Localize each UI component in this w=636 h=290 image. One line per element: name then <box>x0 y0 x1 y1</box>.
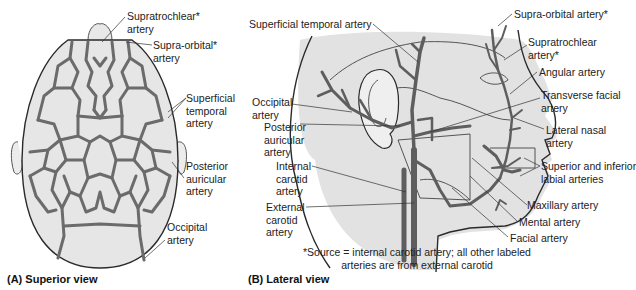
label-b-supratrochlear: Supratrochlear artery* <box>528 36 597 61</box>
label-b-posterior-auricular: Posterior auricular artery <box>264 121 306 159</box>
footnote-source: *Source = internal carotid artery; all o… <box>282 246 552 272</box>
label-b-internal-carotid: Internal carotid artery <box>276 160 311 198</box>
label-a-occipital: Occipital artery <box>167 221 207 246</box>
label-a-supraorbital: Supra-orbital* artery <box>153 39 217 64</box>
label-b-angular: Angular artery <box>539 66 605 79</box>
label-b-transverse-facial: Transverse facial artery <box>541 89 621 114</box>
label-a-posterior-auricular: Posterior auricular artery <box>186 160 228 198</box>
caption-superior-view: (A) Superior view <box>7 273 97 285</box>
label-b-mental: Mental artery <box>519 216 580 229</box>
label-b-facial: Facial artery <box>510 232 568 245</box>
label-b-occipital: Occipital artery <box>252 96 292 121</box>
caption-lateral-view: (B) Lateral view <box>248 273 329 285</box>
label-b-labial: Superior and inferior labial arteries <box>541 160 636 185</box>
label-b-maxillary: Maxillary artery <box>527 199 598 212</box>
label-b-external-carotid: External carotid artery <box>266 201 305 239</box>
label-a-superficial-temporal: Superficial temporal artery <box>186 92 235 130</box>
label-b-lateral-nasal: Lateral nasal artery <box>546 124 606 149</box>
label-b-superficial-temporal: Superficial temporal artery <box>249 18 372 31</box>
label-b-supraorbital: Supra-orbital artery* <box>514 8 608 21</box>
label-a-supratrochlear: Supratrochlear* artery <box>127 10 200 35</box>
